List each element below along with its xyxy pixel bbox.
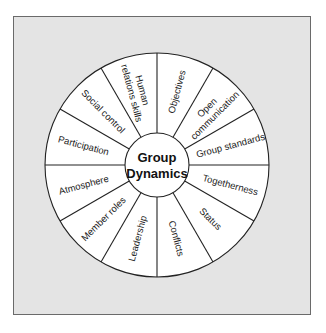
center-label-line2: Dynamics (126, 166, 187, 181)
inner-circle (125, 133, 189, 197)
center-label-line1: Group (138, 150, 177, 165)
group-dynamics-wheel: Group Dynamics ObjectivesOpencommunicati… (0, 0, 326, 333)
